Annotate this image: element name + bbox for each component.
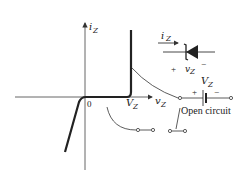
source-sub: Z <box>207 81 213 89</box>
x-axis-sub: Z <box>160 101 166 109</box>
battery-plus: + <box>192 87 197 97</box>
diode-plus: + <box>171 64 176 74</box>
y-axis-label: i <box>89 21 92 32</box>
vz-tick-sub: Z <box>132 103 138 111</box>
open-circuit-label-leader <box>176 108 180 129</box>
battery-model-symbol <box>178 90 232 106</box>
battery-minus: − <box>214 87 219 97</box>
open-circuit-leader <box>107 107 136 130</box>
diode-minus: − <box>201 59 206 69</box>
open-circuit-label: Open circuit <box>181 105 231 116</box>
diode-voltage-sub: Z <box>189 68 195 76</box>
y-axis-sub: Z <box>92 27 98 35</box>
open-circuit-symbol-1 <box>136 128 154 131</box>
origin-label: 0 <box>87 99 92 109</box>
iv-curve <box>65 30 131 152</box>
diode-current-sub: Z <box>165 35 171 43</box>
diode-current-label: i <box>161 30 164 41</box>
open-circuit-symbol-2 <box>168 129 186 132</box>
zener-iv-diagram: i Z v Z 0 V Z i Z + v Z − V Z + − Open c… <box>0 0 250 181</box>
zener-diode-symbol <box>163 44 215 60</box>
